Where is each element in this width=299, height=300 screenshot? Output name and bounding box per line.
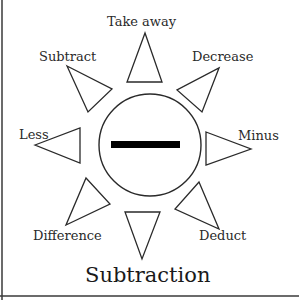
label-less: Less <box>19 128 49 141</box>
label-deduct: Deduct <box>199 229 246 242</box>
subtraction-sun-diagram <box>0 0 299 300</box>
label-difference: Difference <box>33 229 102 242</box>
diagram-title: Subtraction <box>85 265 210 286</box>
label-subtract: Subtract <box>39 50 96 63</box>
label-take-away: Take away <box>107 15 176 28</box>
ray-bottom <box>125 212 160 259</box>
ray-decrease <box>177 68 219 112</box>
label-decrease: Decrease <box>192 50 253 63</box>
minus-sign-icon <box>111 141 180 148</box>
label-minus: Minus <box>238 129 279 142</box>
ray-take-away <box>127 33 162 82</box>
ray-difference <box>66 178 110 225</box>
ray-subtract <box>67 66 112 112</box>
ray-deduct <box>175 182 219 229</box>
